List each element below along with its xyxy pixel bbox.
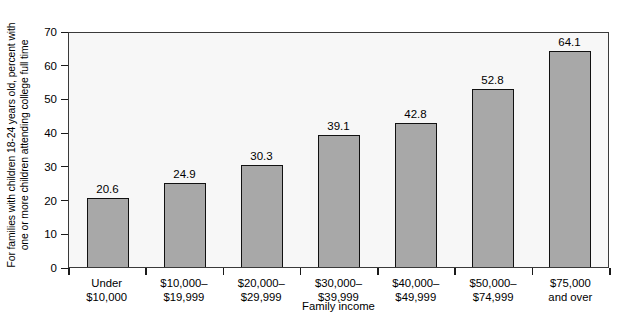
- x-axis-category-line: $40,000–: [377, 276, 454, 290]
- bars-layer: 20.624.930.339.142.852.864.1: [69, 33, 608, 267]
- x-tick: [532, 268, 534, 275]
- y-tick-dash: [61, 234, 68, 235]
- bar[interactable]: [241, 165, 283, 267]
- y-tick-dash: [61, 268, 68, 269]
- y-tick-label: 60: [44, 60, 57, 72]
- y-tick-dash: [61, 65, 68, 66]
- y-tick-50: 50: [44, 92, 68, 106]
- y-tick-label: 0: [51, 262, 57, 274]
- x-axis-category-line: $10,000–: [145, 276, 222, 290]
- bar-value-label: 39.1: [327, 120, 349, 132]
- y-axis-ticks: 010203040506070: [30, 0, 68, 319]
- x-axis-title: Family income: [68, 300, 609, 312]
- bar[interactable]: [164, 183, 206, 267]
- bar-value-label: 42.8: [404, 108, 426, 120]
- y-axis-title-line-1: For families with children 18-24 years o…: [5, 22, 18, 267]
- x-axis-category-line: $75,000: [532, 276, 609, 290]
- bar-slot: 24.9: [146, 33, 223, 267]
- x-axis-category-line: $30,000–: [300, 276, 377, 290]
- bar[interactable]: [395, 123, 437, 267]
- bar[interactable]: [472, 89, 514, 267]
- x-axis-ticks: [68, 268, 609, 275]
- y-tick-0: 0: [51, 261, 68, 275]
- y-tick-label: 70: [44, 26, 57, 38]
- bar-value-label: 20.6: [96, 183, 118, 195]
- y-tick-label: 30: [44, 161, 57, 173]
- y-tick-label: 50: [44, 93, 57, 105]
- bar-chart: For families with children 18-24 years o…: [0, 0, 621, 319]
- bar-slot: 42.8: [377, 33, 454, 267]
- bar[interactable]: [549, 51, 591, 267]
- y-tick-70: 70: [44, 25, 68, 39]
- x-tick: [609, 268, 611, 275]
- y-tick-dash: [61, 200, 68, 201]
- bar-value-label: 52.8: [481, 74, 503, 86]
- y-tick-60: 60: [44, 59, 68, 73]
- x-tick: [68, 268, 70, 275]
- y-tick-label: 20: [44, 195, 57, 207]
- plot-area: 20.624.930.339.142.852.864.1: [68, 32, 609, 268]
- bar[interactable]: [318, 135, 360, 267]
- bar-value-label: 64.1: [558, 36, 580, 48]
- y-tick-dash: [61, 32, 68, 33]
- y-tick-30: 30: [44, 160, 68, 174]
- x-tick: [223, 268, 225, 275]
- y-tick-20: 20: [44, 194, 68, 208]
- x-tick: [300, 268, 302, 275]
- y-tick-label: 10: [44, 228, 57, 240]
- x-tick: [145, 268, 147, 275]
- y-tick-label: 40: [44, 127, 57, 139]
- y-tick-dash: [61, 166, 68, 167]
- y-tick-40: 40: [44, 126, 68, 140]
- bar-slot: 52.8: [454, 33, 531, 267]
- bar-slot: 64.1: [531, 33, 608, 267]
- bar-slot: 39.1: [300, 33, 377, 267]
- y-tick-10: 10: [44, 227, 68, 241]
- bar-slot: 30.3: [223, 33, 300, 267]
- x-axis-category-line: Under: [68, 276, 145, 290]
- x-tick: [377, 268, 379, 275]
- bar-slot: 20.6: [69, 33, 146, 267]
- x-axis-category-line: $50,000–: [454, 276, 531, 290]
- y-tick-dash: [61, 99, 68, 100]
- bar[interactable]: [87, 198, 129, 267]
- x-axis-category-line: $20,000–: [223, 276, 300, 290]
- y-tick-dash: [61, 133, 68, 134]
- bar-value-label: 30.3: [250, 150, 272, 162]
- bar-value-label: 24.9: [173, 168, 195, 180]
- x-tick: [454, 268, 456, 275]
